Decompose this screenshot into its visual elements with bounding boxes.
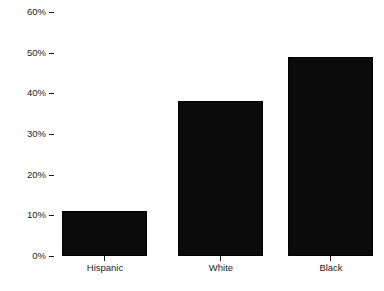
x-axis-tick-black <box>330 256 331 261</box>
x-axis-tick-white <box>220 256 221 261</box>
plot-area: 60% 50% 40% 30% 20% 10% 0% <box>0 0 384 270</box>
x-axis-tick-hispanic <box>104 256 105 261</box>
x-axis-label-hispanic: Hispanic <box>87 262 123 273</box>
bar-hispanic <box>62 211 147 256</box>
bar-black <box>288 57 373 256</box>
x-axis-label-black: Black <box>319 262 342 273</box>
x-axis-label-white: White <box>209 262 233 273</box>
bar-chart-figure: 60% 50% 40% 30% 20% 10% 0% <box>0 0 384 291</box>
footer-source-note <box>4 282 380 291</box>
bars-layer <box>0 0 384 270</box>
bar-white <box>178 101 263 256</box>
